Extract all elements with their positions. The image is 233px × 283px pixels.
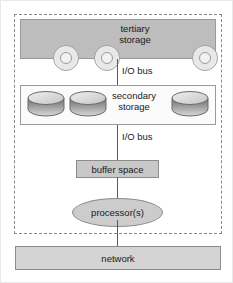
secondary-storage-label: secondary storage (103, 90, 165, 112)
secondary-storage-label-line2: storage (103, 101, 165, 112)
disk-cylinder-icon (171, 91, 209, 117)
network-bar: network (15, 246, 221, 270)
io-bus-label-lower: I/O bus (122, 131, 153, 142)
optical-disc-icon (192, 45, 218, 71)
buffer-space-box: buffer space (76, 160, 159, 178)
diagram-canvas: tertiary storage I/O bus (0, 0, 233, 283)
tertiary-storage-label-line1: tertiary (105, 23, 165, 34)
io-bus-line-upper (117, 59, 118, 85)
buffer-processor-link (117, 177, 118, 199)
processor-network-link (117, 220, 118, 246)
optical-disc-icon (53, 45, 79, 71)
tertiary-storage-label-line2: storage (105, 34, 165, 45)
disk-cylinder-icon (27, 91, 65, 117)
disk-cylinder-icon (69, 91, 107, 117)
io-bus-label-upper: I/O bus (122, 65, 153, 76)
secondary-storage-label-line1: secondary (103, 90, 165, 101)
tertiary-storage-label: tertiary storage (105, 23, 165, 45)
io-bus-line-lower (117, 125, 118, 161)
